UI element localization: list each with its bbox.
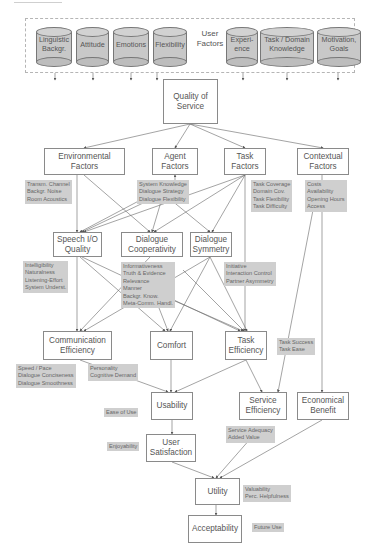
attributes-usability: Ease of Use <box>104 408 138 417</box>
attribute-item: Listening-Effort <box>25 277 66 284</box>
cylinder-label: Attitude <box>76 41 109 50</box>
node-environmental-factors: Environmental Factors <box>44 148 125 175</box>
cylinder-label: Experi- ence <box>226 36 258 53</box>
attributes-communication-efficiency: Speed / Pace Dialogue Conciseness Dialog… <box>16 364 76 388</box>
attribute-item: Manner <box>123 285 173 292</box>
attribute-item: Dialogue Strategy <box>139 188 187 195</box>
attribute-item: Naturalness <box>25 269 66 276</box>
attributes-utility: Valuability Perc. Helpfulness <box>243 485 291 502</box>
cylinder-emotions: Emotions <box>113 27 149 67</box>
attribute-item: Domain Cov. <box>253 188 290 195</box>
attribute-item: Intelligibility <box>25 262 66 269</box>
node-dialogue-cooperativity: Dialogue Cooperativity <box>121 232 183 257</box>
attribute-item: Cognitive Demand <box>90 372 136 379</box>
attribute-item: Partner Asymmetry <box>226 278 274 285</box>
node-communication-efficiency: Communication Efficiency <box>43 331 112 360</box>
attribute-item: Valuability <box>245 486 289 493</box>
attributes-user-satisfaction: Enjoyability <box>107 442 139 451</box>
attributes-symmetry: Initiative Interaction Control Partner A… <box>224 262 276 286</box>
attribute-item: Costs <box>307 181 345 188</box>
node-economical-benefit: Economical Benefit <box>297 392 349 420</box>
attribute-item: System Underst. <box>25 284 66 291</box>
node-contextual-factors: Contextual Factors <box>297 148 349 175</box>
cylinder-attitude: Attitude <box>76 27 109 67</box>
node-speech-io-quality: Speech I/O Quality <box>53 232 102 257</box>
attribute-item: Task Ease <box>279 346 313 353</box>
cylinder-label: Linguistic Backgr. <box>36 36 72 53</box>
attribute-item: Dialogue Flexibility <box>139 196 187 203</box>
cylinder-task-domain-knowledge: Task / Domain Knowledge <box>260 27 314 67</box>
attribute-item: Task Flexibility <box>253 196 290 203</box>
node-acceptability: Acceptability <box>188 515 242 543</box>
attribute-item: Personality <box>90 365 136 372</box>
attribute-item: Ease of Use <box>106 409 136 416</box>
attributes-task: Task Coverage Domain Cov. Task Flexibili… <box>251 180 292 212</box>
attribute-item: System Knowledge <box>139 181 187 188</box>
attribute-item: Opening Hours <box>307 196 345 203</box>
node-task-factors: Task Factors <box>224 148 266 175</box>
cylinder-flexibility: Flexibility <box>153 27 187 67</box>
cylinder-experience: Experi- ence <box>226 27 258 67</box>
node-comfort: Comfort <box>150 331 193 360</box>
node-task-efficiency: Task Efficiency <box>225 331 267 360</box>
attribute-item: Dialogue Smoothness <box>18 380 74 387</box>
attributes-comfort: Personality Cognitive Demand <box>88 364 138 381</box>
attribute-item: Speed / Pace <box>18 365 74 372</box>
attributes-task-efficiency: Task Success Task Ease <box>277 338 315 355</box>
attributes-environmental: Transm. Channel Backgr. Noise Room Acous… <box>25 180 72 204</box>
attribute-item: Future Use <box>254 524 282 531</box>
user-factors-label: User Factors <box>189 29 231 49</box>
attributes-speech-io: Intelligibility Naturalness Listening-Ef… <box>23 261 68 293</box>
attributes-acceptability: Future Use <box>252 523 284 532</box>
node-quality-of-service: Quality of Service <box>163 79 218 124</box>
node-utility: Utility <box>195 478 240 505</box>
quality-of-service-taxonomy-diagram: Linguistic Backgr. Attitude Emotions Fle… <box>0 0 374 551</box>
attribute-item: Room Acoustics <box>27 196 70 203</box>
attribute-item: Enjoyability <box>109 443 137 450</box>
attribute-item: Service Adequacy <box>228 427 273 434</box>
attribute-item: Backgr. Noise <box>27 188 70 195</box>
node-usability: Usability <box>151 392 193 420</box>
attribute-item: Informativeness <box>123 263 173 270</box>
attributes-agent: System Knowledge Dialogue Strategy Dialo… <box>137 180 189 204</box>
attribute-item: Task Coverage <box>253 181 290 188</box>
attribute-item: Access <box>307 203 345 210</box>
cylinder-label: Flexibility <box>153 41 187 50</box>
attribute-item: Relevance <box>123 278 173 285</box>
attributes-contextual: Costs Availability Opening Hours Access <box>305 180 347 212</box>
attribute-item: Transm. Channel <box>27 181 70 188</box>
node-user-satisfaction: User Satisfaction <box>146 434 196 462</box>
cylinder-linguistic-background: Linguistic Backgr. <box>36 27 72 67</box>
attribute-item: Task Difficulty <box>253 203 290 210</box>
cylinder-label: Motivation, Goals <box>317 36 361 53</box>
attribute-item: Meta-Comm. Handl. <box>123 300 173 307</box>
attribute-item: Truth & Evidence <box>123 270 173 277</box>
attribute-item: Task Success <box>279 339 313 346</box>
cylinder-motivation-goals: Motivation, Goals <box>317 27 361 67</box>
attribute-item: Dialogue Conciseness <box>18 372 74 379</box>
attribute-item: Availability <box>307 188 345 195</box>
attributes-cooperativity: Informativeness Truth & Evidence Relevan… <box>121 262 175 308</box>
cylinder-label: Emotions <box>113 41 149 50</box>
cylinder-label: Task / Domain Knowledge <box>260 36 314 53</box>
attribute-item: Added Value <box>228 434 273 441</box>
node-agent-factors: Agent Factors <box>152 148 198 175</box>
node-dialogue-symmetry: Dialogue Symmetry <box>190 232 232 257</box>
attribute-item: Backgr. Know. <box>123 293 173 300</box>
attributes-service-efficiency: Service Adequacy Added Value <box>226 426 275 443</box>
attribute-item: Perc. Helpfulness <box>245 493 289 500</box>
node-service-efficiency: Service Efficiency <box>239 392 287 420</box>
attribute-item: Interaction Control <box>226 270 274 277</box>
attribute-item: Initiative <box>226 263 274 270</box>
